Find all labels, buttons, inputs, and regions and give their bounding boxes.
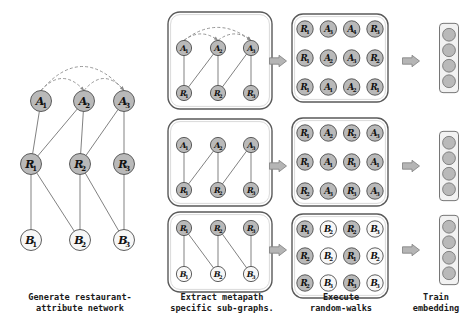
node-subscript: 2 [353,133,357,139]
node-subscript: 1 [32,240,37,249]
node-subscript: 3 [252,228,256,234]
subgraph-node-R3: R3 [243,182,258,197]
node-subscript: 3 [376,133,380,139]
node-subscript: 2 [306,191,310,197]
subgraph-panel-1: A1A2A3R1R2R3 [168,12,272,109]
caption-generate-network: Generate restaurant- attribute network [2,292,158,314]
network-node-A1: A1 [31,91,52,112]
walk-node-r1c1: R1 [297,21,313,37]
node-subscript: 3 [329,191,333,197]
subgraph-node-A3: A3 [243,137,258,152]
walk-node-r2c3: A3 [343,50,359,66]
subgraph-node-A1: A1 [176,40,191,55]
node-subscript: 3 [252,48,256,54]
node-subscript: 2 [219,145,223,151]
subgraph-node-R3: R3 [243,85,258,100]
node-subscript: 1 [329,162,333,168]
network-edge-R1-B2 [37,173,75,231]
walk-node-r1c3: R2 [343,125,359,141]
node-subscript: 3 [376,229,380,235]
network-node-A2: A2 [74,91,95,112]
walk-node-r2c2: A2 [320,50,336,66]
pipeline-diagram: A1A2A3R1R2R3B1B2B3A1A2A3R1R2R3A1A2A3R1R2… [0,0,476,330]
node-subscript: 2 [376,58,380,64]
node-subscript: 2 [219,274,223,280]
walk-node-r1c3: R2 [343,221,359,237]
dashed-arc [41,79,84,91]
arrow-walk-to-emb-1 [403,55,420,67]
embedding-cell [443,267,456,280]
subgraph-dashed-A1-A3 [184,27,251,40]
node-subscript: 3 [353,283,357,289]
walks-panel-3: R1B2R2B3R2B2R1B2R2B3R3B3 [292,214,388,298]
node-subscript: 2 [85,101,90,110]
node-subscript: 1 [353,256,357,262]
subgraph-panel-3: R1R2R3B1B2B3 [168,212,272,292]
embedding-cell [443,220,456,233]
walk-node-r1c2: A2 [320,125,336,141]
walk-node-r2c4: R2 [367,50,383,66]
caption-extract-subgraphs: Extract metapath specific sub-graphs. [158,292,286,314]
walk-node-r3c2: A3 [320,183,336,199]
node-subscript: 2 [219,228,223,234]
subgraph-node-B3: B3 [243,266,258,281]
walks-panel-2: R1A2R2A3R1A1R1A1R2A3R3A3 [292,118,388,206]
walk-node-r1c2: A3 [320,21,336,37]
node-subscript: 3 [252,274,256,280]
node-subscript: 2 [219,48,223,54]
node-subscript: 3 [252,190,256,196]
network-node-R3: R3 [114,154,135,175]
embedding-1 [440,23,459,92]
walk-node-r2c3: R1 [343,154,359,170]
node-subscript: 1 [306,29,310,35]
walk-node-r2c4: B2 [367,248,383,264]
node-subscript: 2 [81,240,86,249]
subgraph-node-R1: R1 [176,220,191,235]
embedding-cell [443,59,456,72]
walk-node-r3c2: B3 [320,275,336,291]
node-subscript: 3 [252,145,256,151]
arrow-walk-to-emb-3 [403,244,420,256]
node-subscript: 2 [353,229,357,235]
subgraph-node-A2: A2 [210,137,225,152]
walk-node-r2c3: R1 [343,248,359,264]
node-subscript: 1 [42,101,47,110]
node-subscript: 1 [185,48,189,54]
walks-panel-1: R1A3A4R3R1A2A3R2R1A1A2R1 [292,14,388,102]
embedding-cell [443,251,456,264]
embedding-cell [443,75,456,88]
node-subscript: 3 [125,101,130,110]
node-subscript: 1 [306,133,310,139]
dashed-arrowhead [80,86,84,90]
node-subscript: 1 [376,87,380,93]
network-edge-A2-R2 [81,111,84,153]
node-subscript: 2 [306,256,310,262]
subgraph-edge-R1-B2 [189,234,214,268]
subgraph-node-B2: B2 [210,266,225,281]
subgraph-node-A2: A2 [210,40,225,55]
subgraph-node-R2: R2 [210,85,225,100]
embedding-cell [443,183,456,196]
node-subscript: 1 [353,162,357,168]
node-subscript: 3 [125,240,130,249]
subgraph-edge-A2-R1 [189,54,214,87]
caption-train-embedding: Train embedding [396,292,476,314]
walk-node-r1c4: B3 [367,221,383,237]
network-edge-A1-R1 [33,111,40,153]
node-subscript: 1 [185,93,189,99]
stage-generate-network: A1A2A3R1R2R3B1B2B3 [21,67,135,251]
embedding-cell [443,136,456,149]
subgraph-dashed-A2-A3 [218,34,251,41]
walk-node-r3c1: R2 [297,275,313,291]
network-node-B1: B1 [21,230,42,251]
node-subscript: 2 [306,283,310,289]
walk-node-r1c1: R1 [297,125,313,141]
node-subscript: 1 [306,58,310,64]
walk-node-r1c3: A4 [343,21,359,37]
figure-canvas: A1A2A3R1R2R3B1B2B3A1A2A3R1R2R3A1A2A3R1R2… [0,0,476,330]
node-subscript: 1 [306,162,310,168]
subgraph-edge-R2-B3 [222,234,246,268]
node-subscript: 1 [32,164,37,173]
caption-random-walks: Execute random-walks [286,292,396,314]
walk-node-r1c4: R3 [367,21,383,37]
